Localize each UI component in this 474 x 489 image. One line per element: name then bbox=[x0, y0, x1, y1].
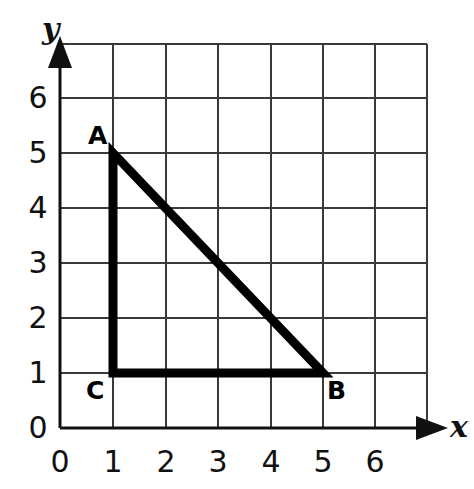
x-tick-5: 5 bbox=[310, 447, 336, 477]
x-tick-3: 3 bbox=[205, 447, 231, 477]
y-tick-0: 0 bbox=[25, 413, 51, 443]
y-tick-3: 3 bbox=[25, 248, 51, 278]
x-axis bbox=[60, 416, 448, 440]
y-tick-4: 4 bbox=[25, 193, 51, 223]
coordinate-plane-figure: 0 1 2 3 4 5 6 0 1 2 3 4 5 6 y x A B C bbox=[0, 0, 474, 489]
y-axis bbox=[48, 36, 72, 428]
y-tick-1: 1 bbox=[25, 358, 51, 388]
y-tick-6: 6 bbox=[25, 83, 51, 113]
vertex-label-b: B bbox=[327, 378, 346, 403]
x-tick-4: 4 bbox=[258, 447, 284, 477]
x-tick-1: 1 bbox=[100, 447, 126, 477]
x-tick-2: 2 bbox=[153, 447, 179, 477]
y-tick-5: 5 bbox=[25, 138, 51, 168]
arrow-right-icon bbox=[416, 416, 448, 440]
vertex-label-a: A bbox=[88, 123, 107, 148]
y-axis-label: y bbox=[42, 14, 59, 44]
x-tick-6: 6 bbox=[362, 447, 388, 477]
x-tick-0: 0 bbox=[47, 447, 73, 477]
vertex-label-c: C bbox=[86, 378, 104, 403]
y-tick-2: 2 bbox=[25, 303, 51, 333]
x-axis-label: x bbox=[450, 412, 468, 442]
grid-and-triangle-svg bbox=[0, 0, 474, 489]
